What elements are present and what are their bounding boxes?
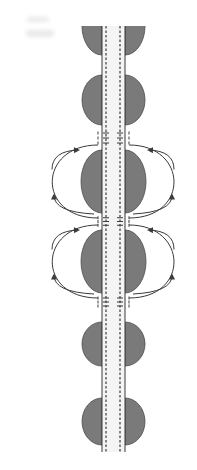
segment-5-right bbox=[125, 398, 145, 445]
segment-0-left bbox=[82, 0, 102, 55]
axon bbox=[102, 26, 125, 452]
segment-0-right bbox=[125, 0, 145, 55]
segment-2-right bbox=[125, 150, 146, 213]
segment-4-right bbox=[125, 322, 145, 366]
segment-1-left bbox=[82, 75, 102, 125]
segment-2-left bbox=[81, 150, 102, 213]
segment-3-left bbox=[81, 230, 102, 293]
segment-3-right bbox=[125, 230, 146, 293]
myelinated-axon-diagram bbox=[0, 0, 197, 470]
segment-1-right bbox=[125, 75, 145, 125]
segment-5-left bbox=[82, 398, 102, 445]
segment-4-left bbox=[82, 322, 102, 366]
